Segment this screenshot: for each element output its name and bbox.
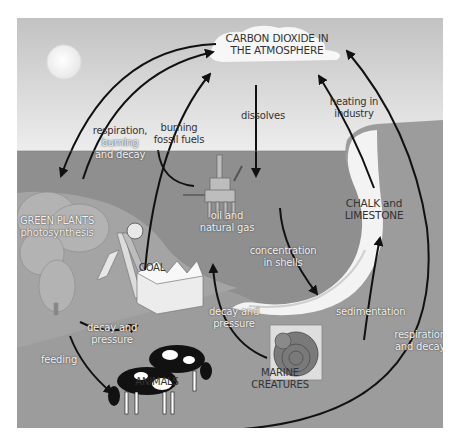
node-green-plants: GREEN PLANTS photosynthesis (17, 215, 99, 239)
burning-fossil-line2: fossil fuels (144, 134, 214, 146)
carbon-cycle-diagram: CARBON DIOXIDE IN THE ATMOSPHERE respira… (17, 18, 443, 428)
decay-pressure-right-line2: pressure (206, 318, 262, 330)
node-atmosphere: CARBON DIOXIDE IN THE ATMOSPHERE (213, 32, 341, 56)
node-marine-creatures: MARINE CREATURES (245, 367, 315, 391)
sun-icon (47, 45, 81, 79)
animals-label: ANIMALS (127, 376, 187, 388)
process-heating-industry: heating in industry (323, 96, 385, 120)
decay-pressure-right-line1: decay and (206, 306, 262, 318)
burning-fossil-line1: burning (144, 122, 214, 134)
marine-line2: CREATURES (245, 379, 315, 391)
respiration-burning-line3: and decay (85, 149, 155, 161)
decay-pressure-left-line2: pressure (82, 334, 142, 346)
atmosphere-label-line1: CARBON DIOXIDE IN (213, 32, 341, 44)
process-decay-pressure-left: decay and pressure (82, 322, 142, 346)
dissolves-label: dissolves (235, 110, 291, 122)
process-sedimentation: sedimentation (336, 306, 404, 318)
node-oil-gas: oil and natural gas (192, 210, 262, 234)
process-decay-pressure-right: decay and pressure (206, 306, 262, 330)
process-burning-fossil-fuels: burning fossil fuels (144, 122, 214, 146)
process-concentration-shells: concentration in shells (243, 245, 323, 269)
process-feeding: feeding (35, 354, 83, 366)
respiration-decay-line2: and decay (392, 341, 443, 353)
green-plants-label: GREEN PLANTS (17, 215, 99, 227)
concentration-line1: concentration (243, 245, 323, 257)
heating-line1: heating in (323, 96, 385, 108)
chalk-line1: CHALK and (342, 197, 406, 209)
coal-label: COAL (132, 262, 172, 274)
node-coal: COAL (132, 262, 172, 274)
respiration-decay-line1: respiration (392, 329, 443, 341)
decay-pressure-left-line1: decay and (82, 322, 142, 334)
concentration-line2: in shells (243, 257, 323, 269)
feeding-label: feeding (35, 354, 83, 366)
sedimentation-label: sedimentation (336, 306, 404, 318)
node-chalk-limestone: CHALK and LIMESTONE (342, 197, 406, 221)
heating-line2: industry (323, 108, 385, 120)
chalk-line2: LIMESTONE (342, 209, 406, 221)
oil-gas-line2: natural gas (192, 222, 262, 234)
process-dissolves: dissolves (235, 110, 291, 122)
node-animals: ANIMALS (127, 376, 187, 388)
process-respiration-decay: respiration and decay (392, 329, 443, 353)
atmosphere-label-line2: THE ATMOSPHERE (213, 44, 341, 56)
photosynthesis-label: photosynthesis (17, 227, 99, 239)
oil-gas-line1: oil and (192, 210, 262, 222)
marine-line1: MARINE (245, 367, 315, 379)
